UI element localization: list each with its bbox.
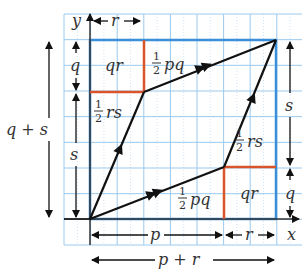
svg-text:pq: pq bbox=[190, 190, 210, 209]
label-qr-top: qr bbox=[105, 56, 124, 75]
dim-right-s: s bbox=[285, 96, 293, 115]
svg-text:2: 2 bbox=[236, 141, 243, 154]
dim-left-q: q bbox=[70, 56, 80, 75]
label-half-pq-bottom: 1 2 pq bbox=[178, 185, 210, 212]
single-arrow-icon bbox=[246, 91, 259, 104]
dim-bottom-p-plus-r: p + r bbox=[158, 250, 201, 269]
dim-bottom-r: r bbox=[245, 225, 254, 244]
dim-right-q: q bbox=[285, 184, 295, 203]
single-arrow-icon bbox=[113, 142, 126, 155]
svg-text:2: 2 bbox=[153, 64, 160, 77]
svg-text:pq: pq bbox=[164, 55, 184, 74]
svg-text:1: 1 bbox=[153, 50, 160, 63]
label-half-rs-left: 1 2 rs bbox=[94, 98, 122, 125]
double-arrow-icon bbox=[145, 185, 164, 200]
svg-text:1: 1 bbox=[236, 127, 243, 140]
svg-text:1: 1 bbox=[179, 185, 186, 198]
x-axis-label: x bbox=[287, 225, 296, 244]
dim-left-s: s bbox=[70, 145, 78, 164]
dim-top-r: r bbox=[111, 11, 120, 30]
label-half-rs-right: 1 2 rs bbox=[235, 127, 263, 154]
dim-left-q-plus-s: q + s bbox=[6, 120, 48, 139]
parallelogram-diagram: qr 1 2 pq 1 2 rs 1 2 rs 1 2 pq qr y x bbox=[0, 0, 302, 277]
svg-text:rs: rs bbox=[247, 132, 263, 151]
svg-text:1: 1 bbox=[95, 98, 102, 111]
svg-text:2: 2 bbox=[95, 112, 102, 125]
y-axis-label: y bbox=[71, 11, 82, 30]
label-qr-bottom: qr bbox=[240, 184, 259, 203]
label-half-pq-top: 1 2 pq bbox=[152, 50, 184, 77]
dim-bottom-p: p bbox=[150, 225, 160, 244]
svg-text:2: 2 bbox=[179, 199, 186, 212]
svg-text:rs: rs bbox=[106, 103, 122, 122]
